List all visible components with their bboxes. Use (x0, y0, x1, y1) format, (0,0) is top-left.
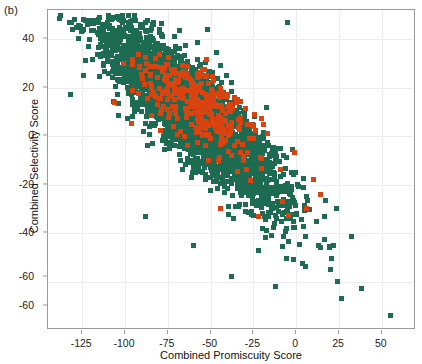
data-point-orange (195, 140, 200, 145)
data-point-orange (121, 61, 126, 66)
data-point-orange (226, 149, 231, 154)
data-point-orange (136, 52, 141, 57)
data-point-green (329, 256, 334, 261)
x-tick-mark (81, 330, 82, 334)
data-point-green (148, 28, 153, 33)
data-point-green (164, 140, 169, 145)
data-point-orange (241, 154, 246, 159)
data-point-orange (232, 143, 237, 148)
data-point-orange (143, 68, 148, 73)
data-point-green (226, 204, 231, 209)
data-point-green (266, 143, 271, 148)
data-point-green (137, 31, 142, 36)
data-point-orange (148, 73, 153, 78)
data-point-orange (153, 56, 158, 61)
data-point-green (263, 195, 268, 200)
y-axis-title: Combined Selectivity Score (28, 46, 40, 286)
data-point-green (218, 63, 223, 68)
data-point-green (281, 234, 286, 239)
data-point-green (204, 148, 209, 153)
data-point-green (248, 141, 253, 146)
data-point-green (328, 267, 333, 272)
data-point-orange (155, 75, 160, 80)
data-point-green (130, 18, 135, 23)
data-point-green (292, 200, 297, 205)
data-point-green (96, 45, 101, 50)
data-point-orange (248, 178, 253, 183)
data-point-green (299, 217, 304, 222)
data-point-green (113, 84, 118, 89)
data-point-orange (244, 167, 249, 172)
data-point-green (169, 142, 174, 147)
data-point-green (150, 22, 155, 27)
data-point-orange (220, 94, 225, 99)
data-point-orange (235, 169, 240, 174)
data-point-green (211, 149, 216, 154)
data-point-green (233, 204, 238, 209)
x-tick-mark (381, 330, 382, 334)
x-tick-label: 0 (292, 337, 298, 349)
data-point-orange (189, 122, 194, 127)
data-point-green (139, 109, 144, 114)
data-point-green (106, 13, 111, 18)
data-point-green (297, 242, 302, 247)
data-point-green (122, 48, 127, 53)
data-point-green (250, 146, 255, 151)
data-point-orange (280, 199, 285, 204)
data-point-green (101, 63, 106, 68)
data-point-green (249, 192, 254, 197)
data-point-green (252, 162, 257, 167)
data-point-green (264, 105, 269, 110)
data-point-green (177, 152, 182, 157)
data-point-orange (177, 95, 182, 100)
data-point-green (301, 224, 306, 229)
data-point-green (256, 190, 261, 195)
data-point-orange (149, 113, 154, 118)
data-point-orange (175, 116, 180, 121)
data-point-orange (208, 136, 213, 141)
data-point-green (115, 92, 120, 97)
data-point-green (122, 76, 127, 81)
y-axis-title-wrap: Combined Selectivity Score (0, 0, 14, 364)
data-point-orange (252, 112, 257, 117)
data-point-orange (259, 166, 264, 171)
data-point-green (149, 121, 154, 126)
data-point-green (273, 284, 278, 289)
data-point-green (323, 198, 328, 203)
data-point-green (249, 209, 254, 214)
data-point-orange (143, 55, 148, 60)
data-point-green (295, 182, 300, 187)
data-point-orange (221, 140, 226, 145)
data-point-green (349, 234, 354, 239)
data-point-green (222, 190, 227, 195)
data-point-orange (176, 87, 181, 92)
data-point-orange (173, 104, 178, 109)
data-point-green (195, 40, 200, 45)
data-point-green (334, 206, 339, 211)
data-point-green (215, 186, 220, 191)
data-point-orange (140, 76, 145, 81)
x-tick-label: -100 (113, 337, 134, 349)
data-point-green (278, 146, 283, 151)
data-point-green (108, 50, 113, 55)
data-point-green (172, 34, 177, 39)
data-point-green (220, 176, 225, 181)
data-point-orange (175, 80, 180, 85)
data-point-green (269, 233, 274, 238)
data-point-orange (172, 86, 177, 91)
data-point-green (146, 48, 151, 53)
data-point-green (117, 17, 122, 22)
data-point-orange (171, 124, 176, 129)
data-point-orange (129, 121, 134, 126)
data-point-green (106, 71, 111, 76)
data-point-green (224, 73, 229, 78)
data-point-green (138, 37, 143, 42)
data-point-orange (247, 136, 252, 141)
data-point-green (231, 216, 236, 221)
data-point-green (83, 58, 88, 63)
data-point-orange (227, 108, 232, 113)
x-tick-mark (167, 330, 168, 334)
data-point-green (279, 219, 284, 224)
data-point-green (359, 286, 364, 291)
data-point-orange (209, 104, 214, 109)
